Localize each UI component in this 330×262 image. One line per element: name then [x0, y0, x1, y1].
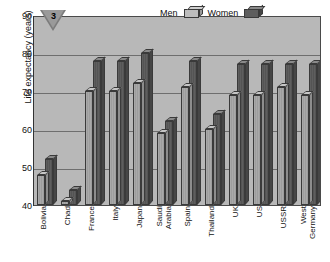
bar-side	[141, 79, 145, 205]
legend-swatch-part	[187, 6, 205, 10]
bar-group	[109, 16, 129, 205]
bar-face	[37, 175, 45, 205]
x-tick-label: Chad	[64, 206, 73, 260]
bar-face	[277, 87, 285, 205]
bar-face	[61, 201, 69, 205]
bar-side	[317, 60, 321, 205]
x-tick-label: Bolivia	[40, 206, 49, 260]
x-tick-label: Thailand	[208, 206, 217, 260]
x-tick-label-line: Bolivia	[40, 206, 49, 260]
bar-side	[197, 56, 201, 205]
y-axis-label: Life expectancy (years)	[23, 0, 33, 137]
bar-side	[309, 90, 313, 205]
life-expectancy-bar-chart: 908070605040 Life expectancy (years) Bol…	[0, 0, 330, 262]
x-tick-label: Italy	[112, 206, 121, 260]
legend-label-women: Women	[208, 8, 239, 18]
y-tick-label: 50	[10, 163, 32, 173]
x-tick-label: Spain	[184, 206, 193, 260]
bar-spain-men	[181, 87, 189, 205]
bar-uk-men	[229, 95, 237, 205]
bar-side	[245, 60, 249, 205]
bar-face	[253, 95, 261, 205]
bar-face	[85, 91, 93, 205]
bar-side	[45, 170, 49, 205]
x-tick-label: SaudiArabia	[156, 206, 173, 260]
bar-side	[173, 117, 177, 205]
bar-side	[261, 90, 265, 205]
bar-side	[189, 83, 193, 205]
bar-saudi-arabia-men	[157, 133, 165, 205]
x-tick-label-line: Japan	[136, 206, 145, 260]
x-tick-label-line: Germany	[309, 206, 318, 260]
bar-side	[213, 125, 217, 205]
legend-label-men: Men	[160, 8, 178, 18]
bar-face	[205, 129, 213, 205]
y-axis-line	[33, 16, 34, 206]
legend-swatch-men	[184, 9, 203, 18]
triangle-down-icon: 3	[40, 10, 67, 32]
bar-face	[157, 133, 165, 205]
bar-bolivia-men	[37, 175, 45, 205]
x-tick-label: France	[88, 206, 97, 260]
bar-side	[269, 60, 273, 205]
bar-group	[157, 16, 177, 205]
bar-face	[133, 83, 141, 205]
bar-group	[229, 16, 249, 205]
bar-face	[181, 87, 189, 205]
bar-face	[301, 95, 309, 205]
bar-side	[125, 56, 129, 205]
bar-face	[109, 91, 117, 205]
bar-side	[149, 49, 153, 205]
bar-italy-men	[109, 91, 117, 205]
plot-area	[33, 16, 321, 206]
bar-group	[181, 16, 201, 205]
x-tick-label: US	[256, 206, 265, 260]
marker-number: 3	[40, 11, 67, 21]
bar-ussr-men	[277, 87, 285, 205]
bar-west-germany-men	[301, 95, 309, 205]
bar-group	[301, 16, 321, 205]
bar-side	[117, 87, 121, 205]
bar-group	[37, 16, 57, 205]
x-tick-label-line: Arabia	[165, 206, 174, 260]
bar-side	[93, 87, 97, 205]
x-tick-label-line: Italy	[112, 206, 121, 260]
x-axis-labels: BoliviaChadFranceItalyJapanSaudiArabiaSp…	[0, 206, 330, 262]
bar-group	[253, 16, 273, 205]
x-tick-label: Japan	[136, 206, 145, 260]
x-tick-label: UK	[232, 206, 241, 260]
bar-side	[165, 128, 169, 205]
x-tick-label-line: US	[256, 206, 265, 260]
bar-france-men	[85, 91, 93, 205]
bar-side	[221, 109, 225, 205]
x-tick-label-line: Chad	[64, 206, 73, 260]
bar-side	[285, 83, 289, 205]
bar-thailand-men	[205, 129, 213, 205]
chart-legend: MenWomen	[160, 8, 263, 18]
x-tick-label: USSR	[280, 206, 289, 260]
x-tick-label-line: France	[88, 206, 97, 260]
bar-us-men	[253, 95, 261, 205]
legend-swatch-women	[244, 9, 263, 18]
bar-layer	[34, 17, 320, 205]
bar-group	[61, 16, 81, 205]
bar-side	[53, 155, 57, 205]
bar-chad-men	[61, 201, 69, 205]
bar-group	[133, 16, 153, 205]
x-tick-label-line: USSR	[280, 206, 289, 260]
bar-japan-men	[133, 83, 141, 205]
bar-group	[205, 16, 225, 205]
bar-side	[237, 90, 241, 205]
bar-side	[101, 56, 105, 205]
bar-group	[277, 16, 297, 205]
x-tick-label-line: Thailand	[208, 206, 217, 260]
bar-side	[293, 60, 297, 205]
x-tick-label: WestGermany	[300, 206, 317, 260]
bar-group	[85, 16, 105, 205]
x-tick-label-line: Spain	[184, 206, 193, 260]
x-tick-label-line: UK	[232, 206, 241, 260]
bar-face	[229, 95, 237, 205]
